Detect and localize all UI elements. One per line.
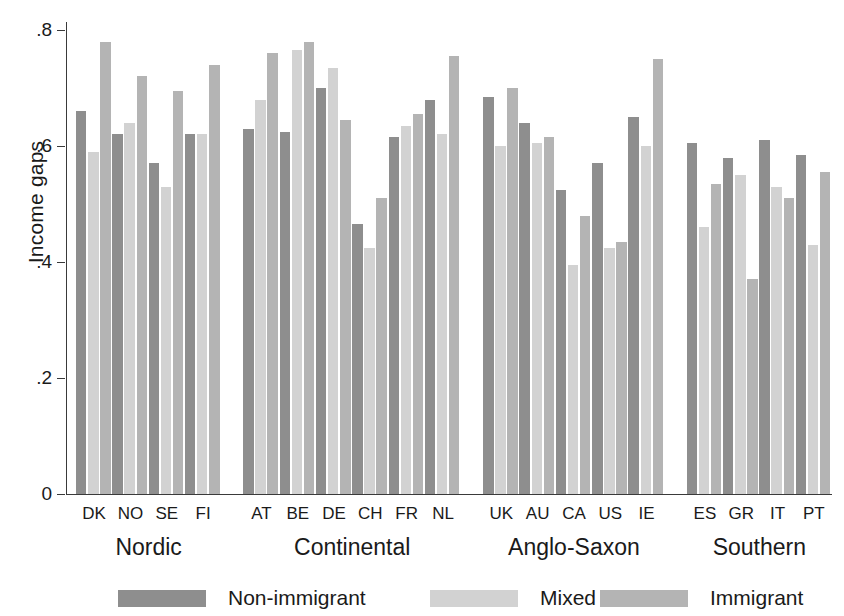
bar-gr-immigrant (747, 279, 757, 494)
bar-ca-non-immigrant (556, 190, 566, 495)
bar-ca-immigrant (580, 216, 590, 494)
bar-nl-non-immigrant (425, 100, 435, 494)
bar-au-immigrant (544, 137, 554, 494)
legend-swatch-icon (118, 590, 206, 607)
legend-item-mixed: Mixed (430, 583, 596, 613)
bar-no-mixed (124, 123, 134, 494)
x-axis-tick-label-fr: FR (395, 504, 418, 524)
legend-label: Immigrant (710, 586, 803, 610)
bar-fr-immigrant (413, 114, 423, 494)
legend-swatch-icon (600, 590, 688, 607)
bar-fr-non-immigrant (389, 137, 399, 494)
legend-label: Mixed (540, 586, 596, 610)
bar-it-non-immigrant (759, 140, 769, 494)
bar-it-mixed (771, 187, 781, 494)
x-axis-tick-label-ie: IE (639, 504, 655, 524)
group-label-anglo-saxon: Anglo-Saxon (508, 534, 640, 561)
x-axis-tick-label-pt: PT (803, 504, 825, 524)
bar-no-non-immigrant (112, 134, 122, 494)
bar-no-immigrant (137, 76, 147, 494)
bar-uk-mixed (495, 146, 505, 494)
x-axis-tick-label-au: AU (526, 504, 550, 524)
plot-area (0, 0, 844, 494)
bar-pt-non-immigrant (796, 155, 806, 494)
x-axis-line (66, 494, 832, 495)
legend-label: Non-immigrant (228, 586, 366, 610)
bar-au-non-immigrant (519, 123, 529, 494)
x-axis-tick-label-ca: CA (562, 504, 586, 524)
group-label-continental: Continental (294, 534, 410, 561)
bar-ie-non-immigrant (628, 117, 638, 494)
x-axis-tick-label-it: IT (770, 504, 785, 524)
bar-es-mixed (699, 227, 709, 494)
bar-fr-mixed (401, 126, 411, 494)
bar-uk-immigrant (507, 88, 517, 494)
group-label-nordic: Nordic (115, 534, 181, 561)
bar-us-mixed (604, 248, 614, 495)
legend-item-non-immigrant: Non-immigrant (118, 583, 366, 613)
bar-at-non-immigrant (243, 129, 253, 494)
bar-se-mixed (161, 187, 171, 494)
x-axis-tick-label-gr: GR (728, 504, 754, 524)
bar-ch-non-immigrant (352, 224, 362, 494)
bar-us-immigrant (616, 242, 626, 494)
chart-legend: Non-immigrantMixedImmigrant (0, 583, 844, 616)
bar-nl-immigrant (449, 56, 459, 494)
bar-uk-non-immigrant (483, 97, 493, 494)
bar-fi-mixed (197, 134, 207, 494)
bar-pt-immigrant (820, 172, 830, 494)
bar-it-immigrant (784, 198, 794, 494)
x-axis-tick-label-us: US (598, 504, 622, 524)
x-axis-tick-label-de: DE (322, 504, 346, 524)
bar-ie-immigrant (653, 59, 663, 494)
bar-dk-non-immigrant (76, 111, 86, 494)
bar-de-immigrant (340, 120, 350, 494)
x-axis-tick-label-nl: NL (432, 504, 454, 524)
x-axis-tick-label-no: NO (118, 504, 144, 524)
bar-es-immigrant (711, 184, 721, 494)
bar-gr-mixed (735, 175, 745, 494)
group-label-southern: Southern (713, 534, 806, 561)
bar-au-mixed (532, 143, 542, 494)
bar-se-non-immigrant (149, 163, 159, 494)
x-axis-tick-label-se: SE (155, 504, 178, 524)
y-axis-tick-mark (57, 494, 65, 495)
bar-dk-immigrant (100, 42, 110, 494)
bar-ch-mixed (364, 248, 374, 495)
bar-es-non-immigrant (687, 143, 697, 494)
x-axis-tick-label-at: AT (251, 504, 271, 524)
chart-figure: Income gaps 0.2.4.6.8 DKNOSEFIATBEDECHFR… (0, 0, 844, 616)
bar-pt-mixed (808, 245, 818, 494)
x-axis-tick-label-uk: UK (490, 504, 514, 524)
legend-item-immigrant: Immigrant (600, 583, 803, 613)
bar-de-non-immigrant (316, 88, 326, 494)
bar-ie-mixed (641, 146, 651, 494)
bar-be-mixed (292, 50, 302, 494)
bar-fi-immigrant (209, 65, 219, 494)
bar-fi-non-immigrant (185, 134, 195, 494)
legend-swatch-icon (430, 590, 518, 607)
bar-se-immigrant (173, 91, 183, 494)
bar-de-mixed (328, 68, 338, 494)
bar-dk-mixed (88, 152, 98, 494)
bar-be-non-immigrant (280, 132, 290, 495)
x-axis-tick-label-ch: CH (358, 504, 383, 524)
x-axis-tick-label-be: BE (286, 504, 309, 524)
bar-nl-mixed (437, 134, 447, 494)
bar-gr-non-immigrant (723, 158, 733, 494)
x-axis-tick-label-fi: FI (196, 504, 211, 524)
bar-ch-immigrant (376, 198, 386, 494)
bar-us-non-immigrant (592, 163, 602, 494)
bar-ca-mixed (568, 265, 578, 494)
bar-at-immigrant (267, 53, 277, 494)
x-axis-tick-label-es: ES (694, 504, 717, 524)
bar-at-mixed (255, 100, 265, 494)
bar-be-immigrant (304, 42, 314, 494)
x-axis-tick-label-dk: DK (82, 504, 106, 524)
